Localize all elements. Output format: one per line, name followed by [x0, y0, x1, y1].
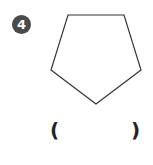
pentagon-outline — [51, 15, 141, 104]
answer-blank[interactable] — [62, 120, 128, 142]
open-parenthesis: ( — [50, 119, 59, 141]
close-parenthesis: ) — [131, 119, 140, 141]
